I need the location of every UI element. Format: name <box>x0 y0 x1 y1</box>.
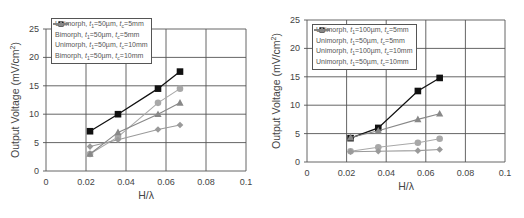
svg-text:20: 20 <box>290 43 300 53</box>
diamond-marker-icon <box>177 122 184 129</box>
circle-marker-icon <box>155 100 162 107</box>
left-chart-legend: Unimorph, t1=50µm, tc=5mm Bimorph, t1=50… <box>51 18 152 64</box>
diamond-marker-icon <box>415 147 422 154</box>
data-series <box>347 110 443 140</box>
x-axis-ticks: 00.020.040.060.080.1 <box>43 177 252 187</box>
square-marker-icon <box>87 128 94 135</box>
data-series <box>87 85 184 157</box>
right-chart: 051015202500.020.040.060.080.1H/λOutput … <box>262 0 524 218</box>
svg-text:25: 25 <box>290 15 300 25</box>
data-series <box>86 99 183 157</box>
y-axis-title: Output Voltage (mV/cm2) <box>270 33 282 149</box>
legend-label: Bimorph, t1=50µm, tc=10mm <box>55 51 143 63</box>
svg-text:0.06: 0.06 <box>417 168 435 178</box>
svg-text:0: 0 <box>304 168 309 178</box>
svg-text:0: 0 <box>43 177 48 187</box>
triangle-marker-icon <box>313 25 331 35</box>
svg-text:0.08: 0.08 <box>197 177 215 187</box>
y-axis-title: Output Voltage (mV/cm2) <box>9 42 21 158</box>
svg-text:10: 10 <box>29 109 39 119</box>
legend-entry: Bimorph, t1=50µm, tc=10mm <box>55 52 148 63</box>
square-marker-icon <box>177 68 184 75</box>
svg-text:0.02: 0.02 <box>77 177 95 187</box>
triangle-marker-icon <box>154 110 161 117</box>
right-chart-legend: Unimorph, t1=100µm, tc=5mm Unimorph, t1=… <box>312 24 417 70</box>
diamond-marker-icon <box>155 126 162 133</box>
data-series <box>347 146 443 155</box>
svg-text:0.1: 0.1 <box>499 168 512 178</box>
svg-text:5: 5 <box>295 129 300 139</box>
svg-text:0: 0 <box>34 166 39 176</box>
svg-text:0: 0 <box>295 157 300 167</box>
legend-entry: Unimorph, t1=50µm, tc=10mm <box>316 58 413 69</box>
square-marker-icon <box>436 75 443 82</box>
triangle-marker-icon <box>176 99 183 106</box>
svg-text:0.06: 0.06 <box>157 177 175 187</box>
svg-text:10: 10 <box>290 100 300 110</box>
x-axis-title: H/λ <box>138 189 155 201</box>
y-axis-ticks: 0510152025 <box>290 15 300 167</box>
svg-text:15: 15 <box>29 81 39 91</box>
svg-text:25: 25 <box>29 24 39 34</box>
svg-text:0.1: 0.1 <box>240 177 253 187</box>
y-axis-ticks: 0510152025 <box>29 24 39 176</box>
triangle-marker-icon <box>114 129 121 136</box>
x-axis-title: H/λ <box>398 180 415 192</box>
svg-text:0.04: 0.04 <box>377 168 395 178</box>
svg-text:0.08: 0.08 <box>457 168 475 178</box>
data-series <box>347 75 443 142</box>
diamond-marker-icon <box>87 143 94 150</box>
svg-text:0.04: 0.04 <box>117 177 135 187</box>
circle-marker-icon <box>177 85 184 92</box>
triangle-marker-icon <box>52 19 70 29</box>
square-marker-icon <box>155 85 162 92</box>
square-marker-icon <box>115 111 122 118</box>
svg-text:5: 5 <box>34 138 39 148</box>
square-marker-icon <box>415 88 422 95</box>
circle-marker-icon <box>436 135 443 142</box>
svg-text:20: 20 <box>29 52 39 62</box>
x-axis-ticks: 00.020.040.060.080.1 <box>304 168 511 178</box>
triangle-marker-icon <box>436 110 443 117</box>
legend-label: Unimorph, t1=50µm, tc=10mm <box>316 57 409 69</box>
svg-text:0.02: 0.02 <box>338 168 356 178</box>
svg-text:15: 15 <box>290 72 300 82</box>
left-chart: 051015202500.020.040.060.080.1H/λOutput … <box>0 0 262 218</box>
diamond-marker-icon <box>436 146 443 153</box>
circle-marker-icon <box>415 139 422 146</box>
